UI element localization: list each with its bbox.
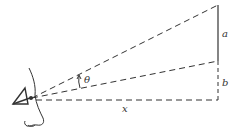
angle-theta-arc: [79, 76, 80, 88]
label-a: a: [222, 28, 228, 39]
diagram-canvas: a b x θ: [0, 0, 235, 140]
sight-line-middle: [32, 61, 218, 98]
label-b: b: [222, 77, 228, 88]
label-x: x: [122, 103, 128, 114]
label-theta: θ: [84, 74, 90, 85]
sight-line-top: [32, 5, 218, 98]
eye-icon: [13, 88, 32, 104]
